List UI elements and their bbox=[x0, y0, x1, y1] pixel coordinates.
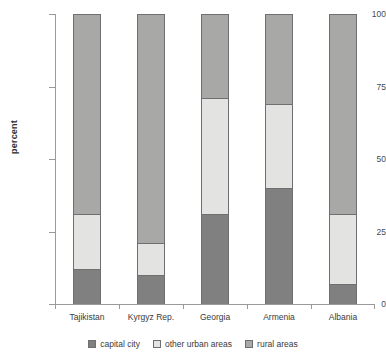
x-tick-0 bbox=[55, 304, 56, 309]
legend-swatch-capital-city-icon bbox=[88, 340, 96, 348]
bar-armenia bbox=[265, 14, 293, 304]
legend-item-capital-city: capital city bbox=[88, 339, 140, 349]
chart-legend: capital city other urban areas rural are… bbox=[0, 339, 386, 349]
legend-swatch-other-urban-areas-icon bbox=[153, 340, 161, 348]
bar-kyrgyz-rep bbox=[137, 14, 165, 304]
x-tick-2 bbox=[183, 304, 184, 309]
x-axis-label-albania: Albania bbox=[301, 312, 385, 322]
bar-segment-armenia-rural-areas bbox=[265, 14, 293, 104]
bar-segment-tajikistan-other-urban-areas bbox=[73, 214, 101, 269]
bar-segment-albania-rural-areas bbox=[329, 14, 357, 214]
bar-segment-albania-capital-city bbox=[329, 284, 357, 304]
bar-segment-georgia-rural-areas bbox=[201, 14, 229, 98]
legend-label-rural-areas: rural areas bbox=[257, 339, 298, 349]
legend-item-rural-areas: rural areas bbox=[245, 339, 298, 349]
bar-segment-tajikistan-rural-areas bbox=[73, 14, 101, 214]
bar-albania bbox=[329, 14, 357, 304]
bar-segment-tajikistan-capital-city bbox=[73, 269, 101, 304]
bar-segment-albania-other-urban-areas bbox=[329, 214, 357, 284]
x-axis-line bbox=[55, 304, 375, 305]
x-tick-3 bbox=[247, 304, 248, 309]
bar-tajikistan bbox=[73, 14, 101, 304]
x-tick-1 bbox=[119, 304, 120, 309]
plot-area bbox=[55, 14, 372, 304]
legend-item-other-urban-areas: other urban areas bbox=[153, 339, 232, 349]
x-tick-4 bbox=[311, 304, 312, 309]
bar-segment-kyrgyz-rep-capital-city bbox=[137, 275, 165, 304]
y-axis-title: percent bbox=[9, 107, 19, 167]
stacked-bar-chart: percent 100 75 50 25 0 Tajikistan Kyrgyz… bbox=[0, 0, 386, 363]
bar-segment-georgia-other-urban-areas bbox=[201, 98, 229, 214]
bar-georgia bbox=[201, 14, 229, 304]
bar-segment-kyrgyz-rep-rural-areas bbox=[137, 14, 165, 243]
legend-swatch-rural-areas-icon bbox=[245, 340, 253, 348]
bar-segment-armenia-capital-city bbox=[265, 188, 293, 304]
legend-label-other-urban-areas: other urban areas bbox=[165, 339, 232, 349]
bar-segment-armenia-other-urban-areas bbox=[265, 104, 293, 188]
x-tick-5 bbox=[374, 304, 375, 309]
bar-segment-kyrgyz-rep-other-urban-areas bbox=[137, 243, 165, 275]
legend-label-capital-city: capital city bbox=[100, 339, 140, 349]
bar-segment-georgia-capital-city bbox=[201, 214, 229, 304]
